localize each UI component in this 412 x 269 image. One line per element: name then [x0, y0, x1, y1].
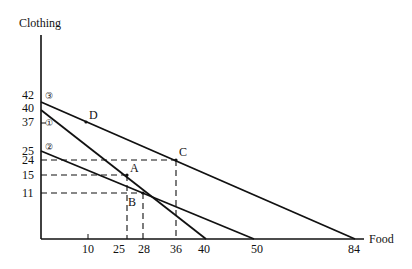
line-label-3: ③	[45, 91, 53, 101]
x-tick-40: 40	[198, 242, 210, 256]
x-tick-84: 84	[348, 242, 360, 256]
point-b-marker	[141, 191, 144, 194]
line-label-2: ②	[45, 142, 53, 152]
point-c-marker	[174, 158, 177, 161]
x-tick-36: 36	[170, 242, 182, 256]
y-tick-24: 24	[22, 153, 34, 167]
point-d-label: D	[89, 108, 98, 122]
x-tick-10: 10	[82, 242, 94, 256]
y-tick-15: 15	[22, 168, 34, 182]
y-tick-37: 37	[22, 115, 34, 129]
x-tick-50: 50	[251, 242, 263, 256]
x-tick-28: 28	[138, 242, 150, 256]
y-tick-40: 40	[22, 101, 34, 115]
point-c-label: C	[179, 145, 187, 159]
point-a-label: A	[130, 161, 139, 175]
budget-line-2	[41, 151, 254, 239]
budget-line-diagram: Clothing Food 42 40 37 25 24 15 11 10 25…	[0, 0, 412, 269]
point-a-marker	[125, 173, 128, 176]
point-d-marker	[84, 120, 87, 123]
line-label-1: ①	[45, 118, 53, 128]
point-b-label: B	[128, 195, 136, 209]
x-axis-title: Food	[369, 232, 394, 246]
y-tick-11: 11	[22, 186, 34, 200]
y-tick-42: 42	[22, 88, 34, 102]
x-tick-25: 25	[113, 242, 125, 256]
y-axis-title: Clothing	[19, 16, 61, 30]
